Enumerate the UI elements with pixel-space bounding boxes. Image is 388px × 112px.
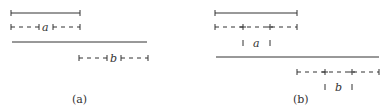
panel-b [215, 10, 379, 90]
interval-label-a: a [253, 37, 260, 50]
interval-diagram: a b (a) a b (b) [0, 0, 388, 112]
interval-label-a: a [42, 21, 49, 34]
interval-label-b: b [110, 52, 117, 65]
panel-caption-a: (a) [72, 93, 87, 106]
interval-label-b: b [335, 81, 342, 94]
panel-a [11, 10, 148, 61]
panel-caption-b: (b) [293, 93, 309, 106]
